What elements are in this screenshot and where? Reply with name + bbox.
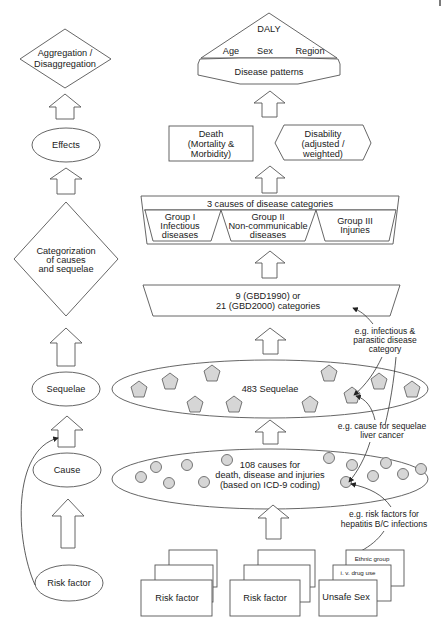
dimension-region: Region bbox=[295, 46, 324, 56]
annotation-hepatitis: e.g. risk factors for hepatitis B/C infe… bbox=[341, 509, 427, 529]
group-2-label-3: diseases bbox=[250, 230, 287, 240]
risk-factor-ellipse: Risk factor bbox=[35, 565, 103, 601]
annotation-liver-2: liver cancer bbox=[360, 430, 404, 440]
categorization-diamond: Categorization of causes and sequelae bbox=[14, 202, 118, 316]
circle-icon bbox=[136, 472, 147, 483]
risk-factor-stack-3: Ethnic group i. v. drug use Unsafe Sex bbox=[319, 550, 404, 616]
causes-set-label-1: 108 causes for bbox=[240, 460, 300, 470]
annotation-infectious-3: category bbox=[369, 344, 402, 354]
disability-hexagon: Disability (adjusted / weighted) bbox=[275, 125, 371, 160]
annotation-infectious: e.g. infectious & parasitic disease cate… bbox=[353, 326, 417, 354]
effects-label: Effects bbox=[52, 140, 80, 150]
up-arrow-icon bbox=[255, 166, 285, 193]
circle-icon bbox=[368, 471, 379, 482]
disability-label-3: weighted) bbox=[302, 149, 343, 159]
effects-ellipse: Effects bbox=[32, 128, 100, 162]
annotation-hepatitis-1: e.g. risk factors for bbox=[349, 509, 419, 519]
disability-label-1: Disability bbox=[305, 129, 342, 139]
ethnic-group-label: Ethnic group bbox=[355, 555, 390, 562]
gbd-label-1: 9 (GBD1990) or bbox=[236, 291, 301, 301]
circle-icon bbox=[324, 453, 335, 464]
risk-factor-stack-1-label: Risk factor bbox=[155, 593, 198, 603]
hepatitis-to-ethnic-line bbox=[361, 531, 384, 551]
circle-icon bbox=[347, 460, 358, 471]
up-arrow-icon bbox=[52, 499, 84, 548]
circle-icon bbox=[381, 458, 392, 469]
sequelae-set-label: 483 Sequelae bbox=[242, 384, 299, 394]
causes-set-ellipse: 108 causes for death, disease and injuri… bbox=[112, 449, 428, 509]
circle-icon bbox=[199, 477, 210, 488]
annotation-liver: e.g. cause for sequelae liver cancer bbox=[338, 421, 427, 440]
up-arrow-icon bbox=[49, 94, 81, 119]
causes-set-label-3: (based on ICD-9 coding) bbox=[220, 480, 320, 490]
risk-factor-stack-2: Risk factor bbox=[230, 550, 315, 616]
up-arrow-icon bbox=[255, 328, 286, 354]
annotation-hepatitis-2: hepatitis B/C infections bbox=[341, 519, 427, 529]
disability-label-2: (adjusted / bbox=[302, 139, 345, 149]
disease-categories-panel: 3 causes of disease categories Group I I… bbox=[141, 196, 399, 244]
circle-icon bbox=[416, 464, 427, 475]
aggregation-diamond: Aggregation / Disaggregation bbox=[20, 29, 111, 88]
sequelae-set-ellipse: 483 Sequelae bbox=[112, 360, 428, 418]
sequelae-ellipse: Sequelae bbox=[32, 372, 100, 406]
disease-patterns-banner: Disease patterns bbox=[198, 58, 340, 84]
aggregation-label-2: Disaggregation bbox=[34, 59, 96, 69]
circle-icon bbox=[151, 462, 162, 473]
up-arrow-icon bbox=[254, 91, 285, 117]
disease-patterns-label: Disease patterns bbox=[235, 67, 304, 77]
circle-icon bbox=[222, 455, 233, 466]
death-label-1: Death bbox=[199, 129, 224, 139]
aggregation-label-1: Aggregation / bbox=[38, 48, 93, 58]
iv-drug-use-label: i. v. drug use bbox=[341, 569, 377, 576]
dimension-sex: Sex bbox=[257, 46, 273, 56]
risk-factor-stack-1: Risk factor bbox=[141, 550, 217, 616]
categories-title: 3 causes of disease categories bbox=[207, 199, 334, 209]
categorization-label-3: and sequelae bbox=[38, 264, 93, 274]
death-box: Death (Mortality & Morbidity) bbox=[169, 126, 253, 161]
group-1-label-3: diseases bbox=[162, 230, 199, 240]
cause-ellipse: Cause bbox=[33, 453, 101, 487]
causes-set-label-2: death, disease and injuries bbox=[215, 470, 325, 480]
death-label-2: (Mortality & bbox=[188, 139, 234, 149]
up-arrow-icon bbox=[51, 416, 83, 447]
group-3-label-2: Injuries bbox=[340, 225, 370, 235]
cause-label: Cause bbox=[54, 465, 81, 475]
risk-factor-label: Risk factor bbox=[47, 578, 90, 588]
daly-triangle: DALY Age Sex Region bbox=[201, 13, 337, 58]
up-arrow-icon bbox=[50, 328, 82, 366]
circle-icon bbox=[164, 478, 175, 489]
circle-icon bbox=[341, 477, 352, 488]
circle-icon bbox=[398, 469, 409, 480]
dimension-age: Age bbox=[223, 46, 239, 56]
sequelae-label: Sequelae bbox=[47, 384, 86, 394]
up-arrow-icon bbox=[50, 168, 82, 194]
up-arrow-icon bbox=[258, 505, 289, 539]
gbd-categories-panel: 9 (GBD1990) or 21 (GBD2000) categories bbox=[143, 285, 400, 316]
up-arrow-icon bbox=[255, 420, 286, 444]
disease-burden-diagram: Aggregation / Disaggregation Effects Cat… bbox=[0, 0, 442, 627]
circle-icon bbox=[182, 460, 193, 471]
risk-factor-stack-2-label: Risk factor bbox=[243, 593, 286, 603]
up-arrow-icon bbox=[255, 251, 285, 278]
death-label-3: Morbidity) bbox=[191, 149, 231, 159]
unsafe-sex-label: Unsafe Sex bbox=[322, 592, 370, 602]
daly-label: DALY bbox=[257, 24, 280, 34]
gbd-label-2: 21 (GBD2000) categories bbox=[216, 301, 321, 311]
